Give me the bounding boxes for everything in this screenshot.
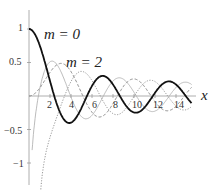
series-y0-thin	[32, 61, 192, 150]
y-tick-0.5: 0.5	[9, 56, 22, 67]
y-tick-neg1: −1	[13, 158, 24, 169]
x-tick-2: 2	[47, 99, 52, 110]
x-tick-14: 14	[174, 99, 184, 110]
series-j0-solid	[29, 29, 192, 123]
x-axis-label: x	[201, 87, 208, 104]
y-tick-1: 1	[18, 22, 23, 33]
x-tick-8: 8	[113, 99, 118, 110]
annotation-m2: m = 2	[66, 54, 102, 71]
x-tick-10: 10	[132, 99, 142, 110]
plot-area	[0, 0, 215, 194]
x-tick-4: 4	[69, 99, 74, 110]
annotation-m0: m = 0	[44, 26, 80, 43]
bessel-chart: 1 0.5 −0.5 −1 2 4 6 8 10 12 14 x m = 0 m…	[0, 0, 215, 194]
x-tick-12: 12	[153, 99, 163, 110]
x-tick-6: 6	[92, 99, 97, 110]
y-tick-neg0.5: −0.5	[4, 125, 22, 136]
